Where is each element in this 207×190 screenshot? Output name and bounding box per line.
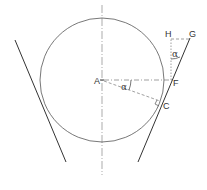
label-C: C xyxy=(163,101,170,111)
angle-arc-A xyxy=(129,80,131,90)
right-tangent-line xyxy=(138,38,190,162)
geometry-diagram: A F C H G α α xyxy=(0,0,207,190)
label-H: H xyxy=(165,29,172,39)
segment-AC xyxy=(104,81,160,101)
left-tangent-line xyxy=(15,40,66,162)
diagram-canvas: A F C H G α α xyxy=(0,0,207,190)
label-alpha-A: α xyxy=(121,82,127,92)
label-G: G xyxy=(189,29,196,39)
label-A: A xyxy=(94,76,100,86)
label-alpha-H: α xyxy=(172,49,178,59)
label-F: F xyxy=(173,78,179,88)
